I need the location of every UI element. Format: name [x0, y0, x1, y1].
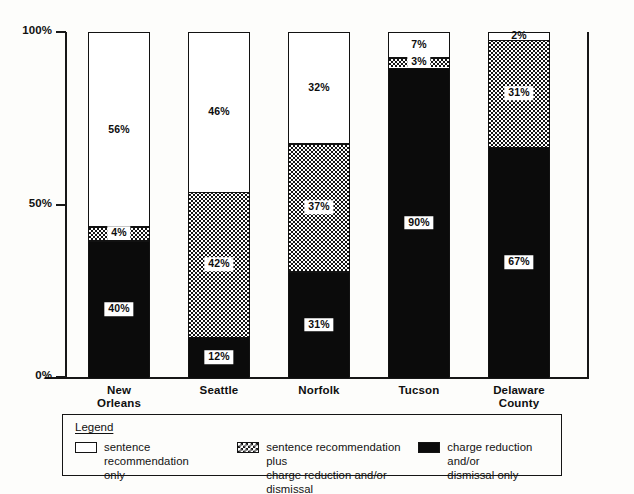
- legend-item[interactable]: sentence recommendationonly: [75, 440, 237, 494]
- legend-swatch-black: [418, 442, 440, 453]
- legend-title: Legend: [75, 421, 113, 433]
- legend-item[interactable]: sentence recommendation pluscharge reduc…: [237, 440, 418, 494]
- bar-tucson[interactable]: 7%3%90%: [388, 32, 450, 377]
- legend-item-label: sentence recommendation pluscharge reduc…: [266, 440, 418, 494]
- bar-segment-value-label: 46%: [208, 107, 229, 118]
- x-axis-label-delaware-county: DelawareCounty: [459, 384, 579, 410]
- bar-segment-value-label: 56%: [108, 124, 129, 135]
- legend-item-label: sentence recommendationonly: [104, 440, 237, 482]
- segment-divider: [289, 143, 349, 145]
- bar-norfolk[interactable]: 32%37%31%: [288, 32, 350, 377]
- segment-divider: [89, 240, 149, 242]
- bar-segment-value-label: 40%: [104, 302, 133, 316]
- legend: Legend sentence recommendationonlysenten…: [62, 414, 562, 476]
- bar-segment-value-label: 42%: [204, 257, 233, 271]
- bar-segment-value-label: 32%: [308, 83, 329, 94]
- bar-segment-value-label: 4%: [107, 226, 130, 240]
- bar-segment-value-label: 31%: [504, 87, 533, 101]
- chart-figure: 100%50%0% 56%4%40%46%42%12%32%37%31%7%3%…: [0, 0, 634, 494]
- legend-item[interactable]: charge reduction and/ordismissal only: [418, 440, 555, 494]
- plot-area: 100%50%0% 56%4%40%46%42%12%32%37%31%7%3%…: [0, 0, 634, 400]
- bar-segment-value-label: 90%: [404, 216, 433, 230]
- legend-item-label-line: charge reduction and/or: [447, 440, 555, 468]
- bar-new-orleans[interactable]: 56%4%40%: [88, 32, 150, 377]
- x-axis-label-line: County: [459, 397, 579, 410]
- legend-items: sentence recommendationonlysentence reco…: [75, 440, 555, 494]
- bar-seattle[interactable]: 46%42%12%: [188, 32, 250, 377]
- segment-divider: [189, 337, 249, 339]
- legend-item-label-line: dismissal only: [447, 468, 555, 482]
- segment-divider: [489, 147, 549, 149]
- bars-layer: 56%4%40%46%42%12%32%37%31%7%3%90%2%31%67…: [0, 0, 634, 400]
- bar-segment-value-label: 37%: [304, 200, 333, 214]
- legend-item-label-line: sentence recommendation plus: [266, 440, 418, 468]
- segment-divider: [389, 68, 449, 70]
- segment-divider: [289, 271, 349, 273]
- legend-item-label-line: charge reduction and/or dismissal: [266, 468, 418, 494]
- bar-segment-value-label: 67%: [504, 256, 533, 270]
- bar-segment-value-label: 12%: [204, 351, 233, 365]
- segment-divider: [189, 192, 249, 194]
- legend-item-label: charge reduction and/ordismissal only: [447, 440, 555, 482]
- legend-swatch-checkered: [237, 442, 259, 453]
- legend-item-label-line: sentence recommendation: [104, 440, 237, 468]
- segment-divider: [489, 40, 549, 42]
- legend-item-label-line: only: [104, 468, 237, 482]
- x-axis-label-line: Delaware: [459, 384, 579, 397]
- bar-delaware-county[interactable]: 2%31%67%: [488, 32, 550, 377]
- bar-segment-value-label: 31%: [304, 318, 333, 332]
- x-axis-label-line: Orleans: [59, 397, 179, 410]
- legend-swatch-white: [75, 442, 97, 453]
- bar-segment-value-label: 7%: [411, 40, 426, 51]
